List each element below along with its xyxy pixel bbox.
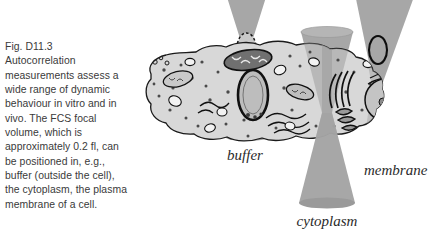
caption-line: membrane of a cell. bbox=[5, 198, 133, 212]
caption-line: vivo. The FCS focal bbox=[5, 112, 133, 126]
caption-line: Autocorrelation bbox=[5, 54, 133, 68]
caption-line: the cytoplasm, the plasma bbox=[5, 183, 133, 197]
caption-line: behaviour in vitro and in bbox=[5, 97, 133, 111]
figure-illustration: buffer bbox=[140, 0, 432, 238]
figure-page: Fig. D11.3 Autocorrelation measurements … bbox=[0, 0, 432, 238]
label-buffer: buffer bbox=[227, 147, 263, 163]
nucleus bbox=[238, 70, 268, 120]
caption-figure-number: Fig. D11.3 bbox=[5, 40, 133, 54]
caption-line: be positioned in, e.g., bbox=[5, 155, 133, 169]
caption-line: buffer (outside the cell), bbox=[5, 169, 133, 183]
caption-line: measurements assess a bbox=[5, 69, 133, 83]
label-cytoplasm: cytoplasm bbox=[297, 213, 358, 229]
figure-caption: Fig. D11.3 Autocorrelation measurements … bbox=[5, 40, 133, 212]
label-membrane: membrane bbox=[364, 162, 428, 178]
caption-line: approximately 0.2 fl, can bbox=[5, 140, 133, 154]
caption-line: wide range of dynamic bbox=[5, 83, 133, 97]
caption-line: volume, which is bbox=[5, 126, 133, 140]
